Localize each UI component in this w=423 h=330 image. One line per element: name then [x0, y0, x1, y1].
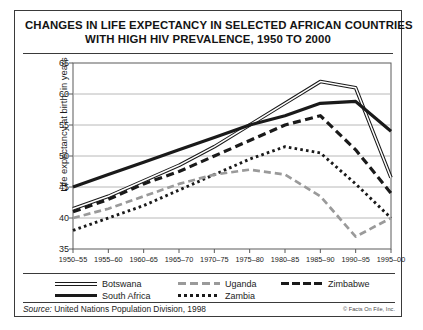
x-tick-7: 1985–90	[306, 255, 334, 264]
legend-swatch-icon	[178, 279, 220, 289]
chart-title: CHANGES IN LIFE EXPECTANCY IN SELECTED A…	[15, 18, 401, 46]
x-tick-9: 1995–00	[377, 255, 405, 264]
copyright-notice: © Facts On File, Inc.	[343, 306, 395, 312]
legend-label: South Africa	[102, 291, 151, 301]
legend-swatch-icon	[55, 279, 97, 289]
source-text: United Nations Population Division, 1998	[52, 304, 206, 314]
legend-item-uganda[interactable]: Uganda	[178, 278, 257, 289]
x-tick-3: 1965–70	[165, 255, 193, 264]
x-tick-4: 1970–75	[200, 255, 228, 264]
plot-area: Life expectancy at birth, in years 35404…	[23, 57, 395, 273]
legend-item-zambia[interactable]: Zambia	[178, 290, 255, 301]
source-note: Source: United Nations Population Divisi…	[23, 304, 206, 314]
chart-page: CHANGES IN LIFE EXPECTANCY IN SELECTED A…	[0, 0, 423, 330]
chart-svg	[23, 57, 395, 273]
title-divider	[23, 53, 393, 54]
x-tick-5: 1975–80	[235, 255, 263, 264]
title-line-2: WITH HIGH HIV PREVALENCE, 1950 TO 2000	[25, 32, 391, 46]
legend-label: Botswana	[102, 279, 142, 289]
legend-items: BotswanaUgandaZimbabweSouth AfricaZambia	[23, 274, 395, 302]
legend-label: Zambia	[225, 291, 255, 301]
source-bar: Source: United Nations Population Divisi…	[23, 303, 395, 317]
legend-swatch-icon	[281, 279, 323, 289]
x-tick-6: 1980–85	[271, 255, 299, 264]
chart-legend: BotswanaUgandaZimbabweSouth AfricaZambia	[23, 273, 395, 303]
legend-item-zimbabwe[interactable]: Zimbabwe	[281, 278, 370, 289]
x-axis-ticks: 1950–551955–601960–651965–701970–751975–…	[73, 249, 395, 269]
legend-item-south-africa[interactable]: South Africa	[55, 290, 151, 301]
legend-swatch-icon	[55, 291, 97, 301]
legend-swatch-icon	[178, 291, 220, 301]
source-prefix: Source:	[23, 304, 52, 314]
legend-label: Zimbabwe	[328, 279, 370, 289]
legend-item-botswana[interactable]: Botswana	[55, 278, 142, 289]
x-tick-2: 1960–65	[129, 255, 157, 264]
chart-card: CHANGES IN LIFE EXPECTANCY IN SELECTED A…	[14, 10, 402, 317]
x-tick-0: 1950–55	[59, 255, 87, 264]
x-tick-8: 1990–95	[341, 255, 369, 264]
x-tick-1: 1955–60	[94, 255, 122, 264]
legend-label: Uganda	[225, 279, 257, 289]
title-line-1: CHANGES IN LIFE EXPECTANCY IN SELECTED A…	[25, 18, 391, 32]
